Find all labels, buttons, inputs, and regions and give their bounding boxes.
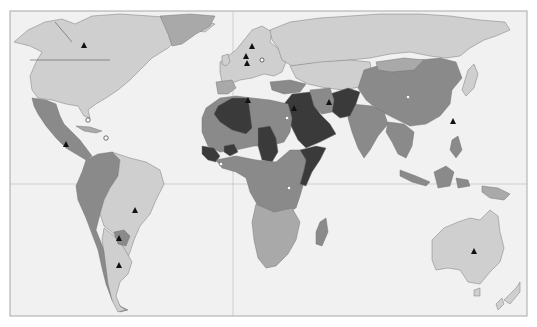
marker-circle-eastern-europe[interactable] [260,58,264,62]
world-map [0,0,537,327]
marker-circle-caribbean[interactable] [104,136,108,140]
map-canvas [0,0,537,327]
marker-square-east-africa[interactable] [288,187,291,190]
marker-square-china[interactable] [407,96,410,99]
marker-square-egypt[interactable] [286,117,289,120]
marker-square-west-africa[interactable] [220,163,223,166]
marker-circle-florida[interactable] [86,118,90,122]
